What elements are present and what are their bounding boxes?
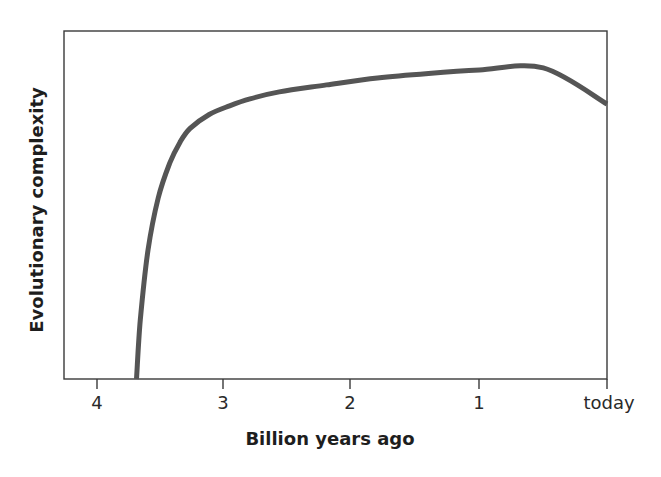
chart: 4 3 2 1 today Billion years ago Evolutio… (0, 0, 661, 477)
tick-label-3: 3 (217, 392, 228, 413)
x-axis-tick-labels: 4 3 2 1 today (91, 392, 635, 413)
tick-label-1: 1 (473, 392, 484, 413)
y-axis-title: Evolutionary complexity (26, 87, 47, 333)
tick-label-2: 2 (344, 392, 355, 413)
tick-label-today: today (583, 392, 635, 413)
x-axis-ticks (97, 379, 607, 389)
x-axis-title: Billion years ago (245, 428, 414, 449)
tick-label-4: 4 (91, 392, 102, 413)
complexity-curve (137, 66, 608, 379)
